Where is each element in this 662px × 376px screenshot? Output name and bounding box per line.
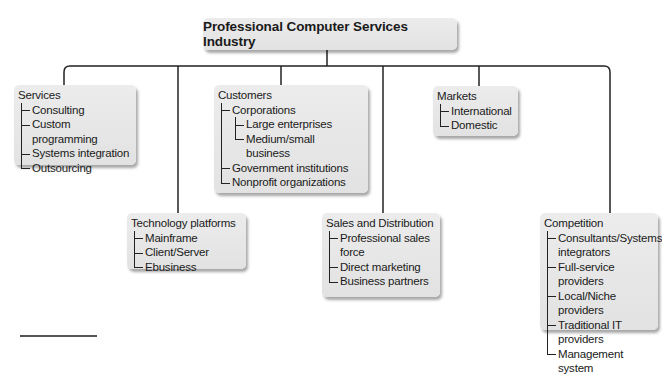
category-sales-and-distribution: Sales and Distribution Professional sale…	[322, 213, 440, 297]
footnote-divider	[20, 335, 97, 337]
list-item: Local/Niche providers	[544, 289, 654, 318]
list-item: Client/Server	[131, 245, 242, 260]
list-item: Large enterprises	[232, 117, 364, 132]
category-customers: Customers Corporations Large enterprises…	[214, 85, 368, 193]
category-items: Professional sales force Direct marketin…	[326, 231, 436, 289]
category-services: Services Consulting Custom programming S…	[14, 85, 136, 165]
root-title: Professional Computer Services Industry	[203, 19, 457, 49]
list-item: Consulting	[18, 103, 132, 118]
category-items: Corporations Large enterprises Medium/sm…	[218, 103, 364, 190]
category-title: Technology platforms	[131, 216, 242, 231]
list-item: Medium/small business	[232, 132, 346, 161]
category-title: Sales and Distribution	[326, 216, 436, 231]
list-item: Full-service providers	[544, 260, 654, 289]
category-items: Consulting Custom programming Systems in…	[18, 103, 132, 176]
list-item: Domestic	[437, 118, 514, 133]
category-items: International Domestic	[437, 104, 514, 133]
category-title: Customers	[218, 88, 364, 103]
category-title: Competition	[544, 216, 654, 231]
list-item: Professional sales force	[326, 231, 430, 260]
list-item: Business partners	[326, 274, 436, 289]
list-item: Government institutions	[218, 161, 364, 176]
list-item: Direct marketing	[326, 260, 436, 275]
list-item: Ebusiness	[131, 260, 242, 275]
list-item: Consultants/Systems integrators	[544, 231, 654, 260]
list-item: International	[437, 104, 514, 119]
sub-items: Large enterprises Medium/small business	[232, 117, 364, 161]
list-item: Custom programming	[18, 117, 132, 146]
root-node: Professional Computer Services Industry	[203, 18, 457, 50]
category-items: Mainframe Client/Server Ebusiness	[131, 231, 242, 275]
category-items: Consultants/Systems integrators Full-ser…	[544, 231, 654, 376]
list-item: Management system	[544, 347, 654, 376]
category-technology-platforms: Technology platforms Mainframe Client/Se…	[127, 213, 246, 269]
category-title: Markets	[437, 89, 514, 104]
list-item: Traditional IT providers	[544, 318, 654, 347]
list-item: Systems integration	[18, 146, 132, 161]
list-item: Corporations Large enterprises Medium/sm…	[218, 103, 364, 161]
list-item: Outsourcing	[18, 161, 132, 176]
list-item: Mainframe	[131, 231, 242, 246]
category-markets: Markets International Domestic	[433, 86, 518, 136]
category-competition: Competition Consultants/Systems integrat…	[540, 213, 658, 330]
category-title: Services	[18, 88, 132, 103]
list-item: Nonprofit organizations	[218, 175, 364, 190]
